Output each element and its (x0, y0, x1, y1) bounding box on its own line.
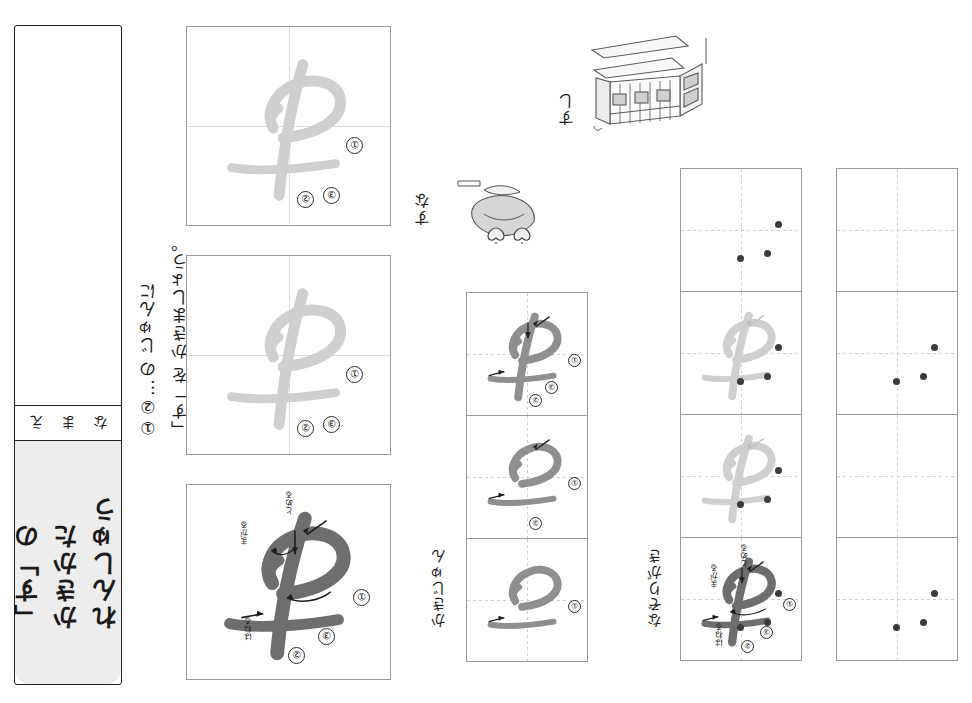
stroke-number-2: ② (529, 394, 542, 407)
picture-word-label-sushi: すし (556, 92, 580, 130)
model-cell-1[interactable]: ① ② ③ (186, 26, 391, 226)
grid-horizontal (837, 230, 957, 231)
start-dot-1 (775, 221, 782, 228)
su-glyph-step3 (467, 293, 587, 415)
stroke-number-2: ② (297, 420, 314, 437)
start-dot-3 (764, 250, 771, 257)
stroke-number-2: ② (288, 647, 305, 664)
name-label-char-2: な (93, 413, 108, 434)
instruction-block: ①②…の じゅんに 「す」を かきましょう。 (132, 18, 166, 438)
stroke-number-1: ① (568, 477, 581, 490)
hint-magaru: まがる (239, 521, 250, 547)
start-dot-2 (737, 255, 744, 262)
stroke-number-1: ① (346, 366, 363, 383)
stroke-number-2: ② (529, 517, 542, 530)
free-write-cell-2[interactable] (836, 291, 958, 415)
grid-horizontal (837, 353, 957, 354)
tracing-cell-3[interactable] (680, 414, 802, 538)
name-input-field[interactable] (15, 26, 121, 406)
start-dot-3 (764, 619, 771, 626)
start-dot-2 (737, 501, 744, 508)
worksheet-sheet: え ま な 「す」の かきかた れんしゅう ①②…の じゅんに 「す」を かきま… (0, 0, 972, 703)
section-label-stroke-order: かきじゅん (428, 548, 449, 632)
su-glyph-light (187, 256, 390, 454)
free-write-cell-4[interactable] (836, 537, 958, 661)
start-dot-1 (775, 467, 782, 474)
stroke-number-3: ③ (318, 628, 335, 645)
hint-tome: とめる (284, 491, 295, 517)
model-cell-3-annotated[interactable]: ① ② ③ とめる まがる はねる (186, 484, 391, 680)
name-label-char-1: ま (61, 413, 76, 434)
stroke-order-cell-2[interactable]: ① ② (466, 415, 588, 539)
stroke-number-3: ③ (323, 416, 340, 433)
stroke-number-1: ① (568, 600, 581, 613)
stroke-number-3: ③ (760, 626, 773, 639)
stroke-number-3: ③ (545, 381, 558, 394)
tracing-cell-1[interactable] (680, 168, 802, 292)
start-dot-3 (920, 619, 927, 626)
free-write-cell-1[interactable] (836, 168, 958, 292)
start-dot-1 (931, 344, 938, 351)
section-label-tracing: なぞりがき (644, 548, 665, 632)
start-dot-2 (737, 624, 744, 631)
picture-word-sushi: すし (556, 30, 716, 160)
start-dot-2 (737, 378, 744, 385)
su-glyph-light (187, 27, 390, 225)
stroke-number-3: ③ (323, 187, 340, 204)
sushi-shop-icon (584, 30, 714, 135)
page-title: 「す」の かきかた れんしゅう (10, 495, 126, 630)
su-glyph-step1 (467, 539, 587, 661)
picture-word-suna: すな (412, 160, 542, 270)
tracing-cell-2[interactable] (680, 291, 802, 415)
start-dot-1 (931, 590, 938, 597)
name-label: え ま な (15, 406, 121, 441)
stroke-number-1: ① (353, 589, 370, 606)
start-dot-3 (764, 496, 771, 503)
stroke-order-cell-1[interactable]: ① (466, 538, 588, 662)
worksheet-title-box: 「す」の かきかた れんしゅう (15, 441, 121, 684)
free-write-cell-3[interactable] (836, 414, 958, 538)
stroke-order-cell-3[interactable]: ① ② ③ (466, 292, 588, 416)
grid-horizontal (681, 230, 801, 231)
start-dot-3 (920, 373, 927, 380)
grid-horizontal (837, 599, 957, 600)
su-glyph-trace (681, 415, 801, 537)
model-cell-2[interactable]: ① ② ③ (186, 255, 391, 455)
name-panel: え ま な 「す」の かきかた れんしゅう (14, 25, 122, 685)
stroke-number-2: ② (741, 640, 754, 653)
hint-hane: はねる (714, 623, 725, 649)
su-glyph-step2 (467, 416, 587, 538)
hint-hane: はねる (243, 617, 254, 643)
start-dot-3 (764, 373, 771, 380)
picture-word-label-suna: すな (412, 192, 436, 230)
su-glyph-trace (681, 292, 801, 414)
start-dot-2 (893, 378, 900, 385)
start-dot-1 (775, 590, 782, 597)
grid-horizontal (837, 476, 957, 477)
name-label-char-0: え (29, 413, 44, 434)
start-dot-2 (893, 624, 900, 631)
tracing-cell-4-annotated[interactable]: ① ② ③ とめる まがる はねる (680, 537, 802, 661)
stroke-number-1: ① (346, 137, 363, 154)
start-dot-1 (775, 344, 782, 351)
hint-magaru: まがる (709, 564, 720, 590)
stroke-number-2: ② (297, 191, 314, 208)
hint-tome: とめる (739, 544, 750, 570)
stroke-number-1: ① (568, 354, 581, 367)
sand-shovel-icon (442, 164, 542, 244)
stroke-number-1: ① (783, 598, 796, 611)
